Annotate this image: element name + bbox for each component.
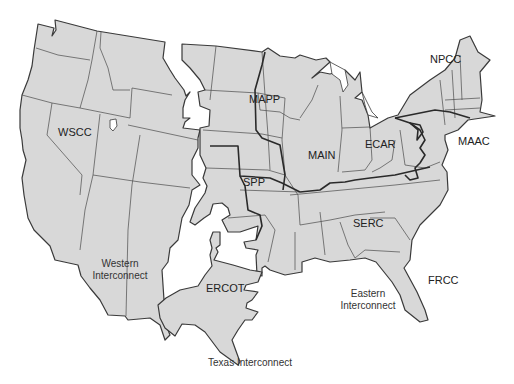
region-label-frcc: FRCC bbox=[428, 274, 459, 286]
region-label-serc: SERC bbox=[353, 217, 384, 229]
region-label-ercot: ERCOT bbox=[206, 282, 245, 294]
interconnect-label-eastern: Eastern Interconnect bbox=[328, 288, 408, 312]
interconnect-label-texas: Texas Interconnect bbox=[200, 357, 300, 369]
region-label-mapp: MAPP bbox=[249, 93, 280, 105]
region-label-maac: MAAC bbox=[458, 135, 490, 147]
region-label-npcc: NPCC bbox=[430, 53, 461, 65]
region-label-wscc: WSCC bbox=[58, 126, 92, 138]
region-label-ecar: ECAR bbox=[365, 138, 396, 150]
region-label-main: MAIN bbox=[308, 149, 336, 161]
western-interconnect-landmass bbox=[20, 20, 200, 340]
texas-interconnect-landmass bbox=[158, 232, 262, 365]
region-label-spp: SPP bbox=[243, 176, 265, 188]
interconnect-label-western: Western Interconnect bbox=[80, 258, 160, 282]
